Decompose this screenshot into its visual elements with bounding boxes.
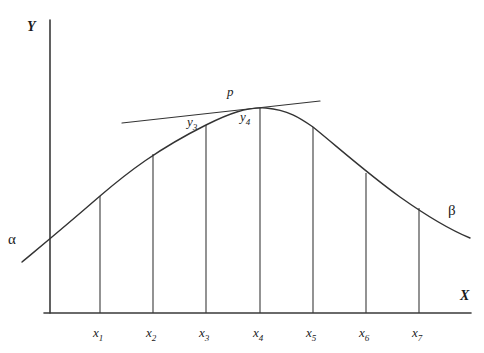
- tangent-point-label: p: [227, 85, 234, 98]
- x-tick-label-2: x2: [146, 326, 156, 343]
- x-tick-label-2-sub: 2: [152, 333, 157, 343]
- x-tick-label-4: x4: [253, 326, 263, 343]
- ordinate-label-y3: y3: [187, 115, 197, 132]
- ordinate-label-y4: y4: [240, 110, 250, 127]
- x-tick-label-3-sub: 3: [205, 333, 210, 343]
- x-tick-label-4-sub: 4: [259, 333, 264, 343]
- y-axis-label: Y: [27, 20, 36, 34]
- x-axis-label: X: [460, 289, 469, 303]
- curve-diagram-svg: [0, 0, 484, 353]
- x-tick-label-1: x1: [93, 326, 103, 343]
- tangent-line: [122, 101, 320, 123]
- x-tick-label-6: x6: [359, 326, 369, 343]
- x-tick-label-7: x7: [412, 326, 422, 343]
- beta-label: β: [448, 203, 456, 218]
- figure-container: Y X α β p y3 y4 x1 x2 x3 x4 x5 x6 x7: [0, 0, 484, 353]
- x-tick-label-5: x5: [306, 326, 316, 343]
- ordinate-label-y4-sub: 4: [246, 117, 251, 127]
- function-curve: [22, 108, 470, 262]
- x-tick-label-7-sub: 7: [418, 333, 423, 343]
- x-tick-label-1-sub: 1: [99, 333, 104, 343]
- ordinate-label-y3-sub: 3: [193, 122, 198, 132]
- x-tick-label-3: x3: [199, 326, 209, 343]
- alpha-label: α: [8, 232, 16, 247]
- ordinate-lines-group: [100, 108, 419, 313]
- x-tick-label-6-sub: 6: [365, 333, 370, 343]
- x-tick-label-5-sub: 5: [312, 333, 317, 343]
